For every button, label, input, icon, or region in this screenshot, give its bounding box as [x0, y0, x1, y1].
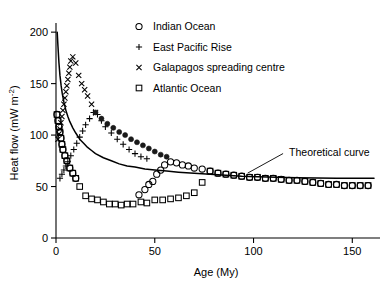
filled-dot-marker — [146, 146, 151, 151]
y-tick-label: 200 — [30, 26, 48, 38]
y-tick-label: 50 — [36, 181, 48, 193]
filled-dot-marker — [93, 110, 98, 115]
filled-dot-marker — [158, 152, 163, 157]
legend-item: Galapagos spreading centre — [136, 61, 285, 73]
filled-dot-marker — [105, 121, 110, 126]
legend-item-label: Indian Ocean — [153, 20, 216, 32]
y-axis-title: Heat flow (mW m-2) — [7, 85, 20, 180]
legend-item-label: Galapagos spreading centre — [153, 61, 285, 73]
x-tick-label: 150 — [343, 245, 361, 257]
filled-dot-marker — [140, 143, 145, 148]
y-axis-title-group: Heat flow (mW m-2) — [7, 85, 20, 180]
filled-dot-marker — [117, 129, 122, 134]
x-axis-title: Age (My) — [194, 266, 239, 278]
filled-dot-marker — [152, 149, 157, 154]
filled-dot-marker — [123, 133, 128, 138]
chart-canvas: 050100150200 050100150 Age (My) Heat flo… — [0, 0, 391, 285]
x-tick-label: 50 — [149, 245, 161, 257]
heat-flow-vs-age-figure: 050100150200 050100150 Age (My) Heat flo… — [0, 0, 391, 285]
filled-dot-marker — [111, 125, 116, 130]
legend-item-label: East Pacific Rise — [153, 41, 232, 53]
theoretical-curve-label: Theoretical curve — [289, 146, 370, 158]
filled-dot-marker — [164, 154, 169, 159]
y-tick-label: 0 — [42, 232, 48, 244]
filled-dot-marker — [99, 116, 104, 121]
y-tick-label: 100 — [30, 129, 48, 141]
legend-item-label: Atlantic Ocean — [153, 82, 221, 94]
x-tick-label: 100 — [244, 245, 262, 257]
x-tick-label: 0 — [53, 245, 59, 257]
filled-dot-marker — [134, 140, 139, 145]
y-tick-label: 150 — [30, 78, 48, 90]
filled-dot-marker — [129, 137, 134, 142]
